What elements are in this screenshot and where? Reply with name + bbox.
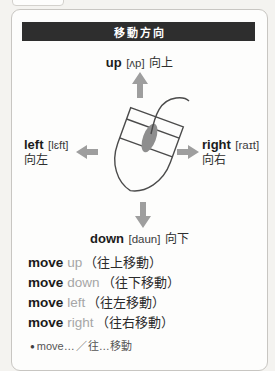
up-phonetic: [ʌp] — [126, 57, 145, 69]
right-phonetic: [raɪt] — [235, 139, 259, 151]
phrase-verb: move — [28, 315, 63, 330]
pattern-note: ●move…／往…移動 — [12, 337, 267, 353]
bullet-icon: ● — [30, 342, 35, 351]
phrase-direction: left — [67, 295, 85, 310]
left-chinese: 向左 — [24, 153, 69, 168]
phrase-chinese: （往下移動） — [102, 275, 180, 290]
phrase-verb: move — [28, 255, 63, 270]
left-word: left — [24, 137, 44, 152]
down-chinese: 向下 — [165, 232, 189, 246]
phrase-row: moveup（往上移動） — [12, 253, 267, 273]
phrase-direction: right — [67, 315, 93, 330]
previous-card-fragment — [12, 0, 64, 6]
phrase-chinese: （往右移動） — [96, 315, 174, 330]
phrase-row: moveleft（往左移動） — [12, 293, 267, 313]
phrase-direction: down — [67, 275, 99, 290]
down-label: down [daun] 向下 — [12, 229, 267, 247]
up-word: up — [106, 55, 122, 70]
section-header: 移動方向 — [22, 22, 255, 41]
down-word: down — [90, 231, 124, 246]
pattern-english: move… — [37, 340, 75, 352]
phrase-row: movedown（往下移動） — [12, 273, 267, 293]
scroll-wheel — [138, 122, 160, 155]
left-label: left [lɛft] 向左 — [24, 136, 69, 168]
left-phonetic: [lɛft] — [48, 139, 69, 151]
section-title: 移動方向 — [112, 24, 166, 40]
pattern-separator: ／ — [76, 340, 87, 352]
vocabulary-card: 移動方向 up [ʌp] 向上 left [lɛft] 向左 right [ra… — [11, 9, 268, 371]
down-arrow-icon — [135, 202, 151, 232]
mouse-illustration — [92, 90, 222, 210]
phrase-direction: up — [67, 255, 82, 270]
up-label: up [ʌp] 向上 — [12, 53, 267, 71]
phrase-row: moveright（往右移動） — [12, 313, 267, 333]
phrase-chinese: （往左移動） — [87, 295, 165, 310]
pattern-chinese: 往…移動 — [88, 340, 132, 352]
phrase-verb: move — [28, 275, 63, 290]
phrase-list: moveup（往上移動） movedown（往下移動） moveleft（往左移… — [12, 253, 267, 353]
phrase-verb: move — [28, 295, 63, 310]
phrase-chinese: （往上移動） — [84, 255, 162, 270]
up-chinese: 向上 — [149, 56, 173, 70]
down-phonetic: [daun] — [128, 233, 160, 245]
